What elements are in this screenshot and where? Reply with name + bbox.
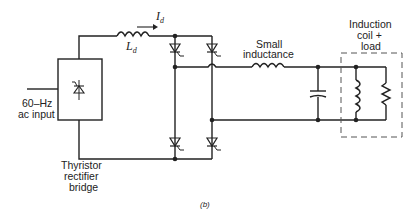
junction-dot	[173, 34, 178, 39]
junction-dot	[210, 118, 215, 123]
current-arrow	[137, 24, 158, 30]
thyristor-bottom-left-icon	[170, 138, 184, 150]
thyristor-bottom-right-icon	[207, 138, 221, 150]
inverter-circuit-diagram: Id Ld Small inductance Induction coil + …	[0, 0, 418, 214]
dc-bottom-wire	[79, 120, 212, 159]
junction-dot	[354, 65, 359, 70]
small-inductance-label-2: inductance	[243, 48, 294, 60]
ac-input-label-2: ac input	[18, 108, 55, 120]
junction-dot	[316, 118, 321, 123]
thyristor-top-left-icon	[170, 44, 184, 56]
load-resistor	[382, 83, 390, 105]
rectifier-box	[58, 59, 102, 120]
rectifier-thyristor-icon	[72, 80, 84, 100]
current-label: Id	[155, 9, 165, 25]
load-dashed-box	[341, 53, 402, 137]
figure-caption: (b)	[200, 200, 210, 209]
induction-coil	[356, 80, 360, 112]
dc-top-wire	[79, 36, 117, 59]
junction-dot	[173, 157, 178, 162]
inductor-label: Ld	[125, 39, 138, 55]
small-inductance	[252, 64, 284, 68]
thyristor-top-right-icon	[207, 44, 221, 56]
junction-dot	[316, 65, 321, 70]
output-wire-upper	[175, 64, 252, 67]
bridge-label-3: bridge	[69, 181, 98, 193]
junction-dot	[173, 65, 178, 70]
junction-dot	[354, 118, 359, 123]
dc-link-inductor	[117, 32, 149, 36]
load-label-3: load	[361, 40, 381, 52]
